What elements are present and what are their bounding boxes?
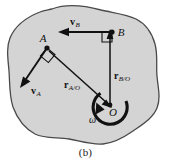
label-rBO-subscript: B/O	[119, 75, 130, 83]
rigid-body-shape	[8, 6, 159, 145]
label-point-a: A	[39, 32, 47, 44]
label-angular-velocity: ω	[89, 114, 96, 125]
point-dot-a	[44, 45, 49, 50]
label-vB-subscript: B	[75, 21, 80, 29]
figure-caption: (b)	[0, 146, 171, 158]
label-point-b: B	[118, 26, 125, 38]
point-dot-b	[109, 29, 114, 34]
label-vA-symbol: v	[31, 85, 36, 96]
label-point-o: O	[109, 106, 117, 118]
label-rAO-subscript: A/O	[68, 84, 80, 92]
label-vB-symbol: v	[70, 16, 75, 27]
rigid-body-kinematics-figure: A B O vB vA rA/O rB/O ω	[0, 0, 171, 165]
label-vA-subscript: A	[35, 90, 41, 98]
diagram-canvas: A B O vB vA rA/O rB/O ω	[0, 0, 171, 165]
